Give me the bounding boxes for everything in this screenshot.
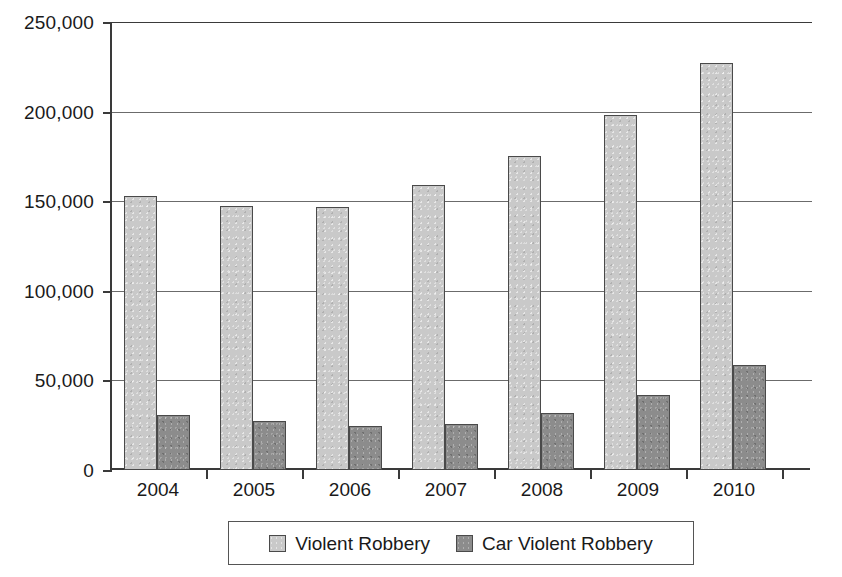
x-axis-label-2008: 2008 [494, 479, 590, 501]
bar-violent-robbery-2010 [700, 63, 733, 470]
x-tick-7 [782, 470, 784, 479]
y-axis-label-150000: 150,000 [0, 192, 94, 211]
x-tick-5 [590, 470, 592, 479]
legend-entry-violent-robbery: Violent Robbery [269, 534, 430, 553]
bar-chart: 250,000 200,000 150,000 100,000 50,000 0… [0, 0, 842, 577]
bar-violent-robbery-2006 [316, 207, 349, 470]
chart-legend: Violent Robbery Car Violent Robbery [228, 521, 694, 565]
x-tick-6 [686, 470, 688, 479]
bar-car-violent-robbery-2007 [445, 424, 478, 470]
x-axis-label-2009: 2009 [590, 479, 686, 501]
bar-car-violent-robbery-2010 [733, 365, 766, 470]
y-axis-label-250000: 250,000 [0, 13, 94, 32]
bar-violent-robbery-2004 [124, 196, 157, 470]
bar-car-violent-robbery-2008 [541, 413, 574, 470]
x-tick-2 [302, 470, 304, 479]
y-axis-label-0: 0 [0, 461, 94, 480]
bar-car-violent-robbery-2006 [349, 426, 382, 470]
x-tick-1 [206, 470, 208, 479]
legend-swatch-icon-car-violent-robbery [456, 535, 473, 552]
x-axis-label-2005: 2005 [206, 479, 302, 501]
y-axis-label-100000: 100,000 [0, 282, 94, 301]
bar-violent-robbery-2007 [412, 185, 445, 470]
bar-violent-robbery-2009 [604, 115, 637, 470]
x-tick-3 [398, 470, 400, 479]
legend-label-car-violent-robbery: Car Violent Robbery [482, 534, 653, 553]
bar-violent-robbery-2008 [508, 156, 541, 470]
x-axis-label-2006: 2006 [302, 479, 398, 501]
legend-label-violent-robbery: Violent Robbery [295, 534, 430, 553]
bars-layer [110, 22, 810, 470]
bar-car-violent-robbery-2005 [253, 421, 286, 470]
y-axis-label-200000: 200,000 [0, 103, 94, 122]
bar-car-violent-robbery-2009 [637, 395, 670, 470]
y-tick-0 [103, 470, 112, 472]
x-axis-label-2010: 2010 [686, 479, 782, 501]
legend-entry-car-violent-robbery: Car Violent Robbery [456, 534, 653, 553]
legend-swatch-icon-violent-robbery [269, 535, 286, 552]
x-tick-4 [494, 470, 496, 479]
bar-car-violent-robbery-2004 [157, 415, 190, 470]
bar-violent-robbery-2005 [220, 206, 253, 470]
y-axis-label-50000: 50,000 [0, 371, 94, 390]
x-axis-label-2007: 2007 [398, 479, 494, 501]
x-axis-label-2004: 2004 [110, 479, 206, 501]
